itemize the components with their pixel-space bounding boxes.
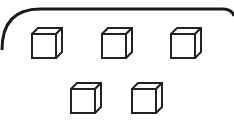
cube-icon [102, 28, 132, 58]
cube-front-face [171, 34, 195, 58]
cube-diagram [0, 0, 234, 138]
cube-front-face [71, 89, 95, 113]
cube-group [32, 28, 201, 113]
cube-front-face [102, 34, 126, 58]
cube-icon [171, 28, 201, 58]
cube-front-face [132, 89, 156, 113]
cube-icon [32, 28, 62, 58]
cube-icon [71, 83, 101, 113]
cube-front-face [32, 34, 56, 58]
cube-icon [132, 83, 162, 113]
